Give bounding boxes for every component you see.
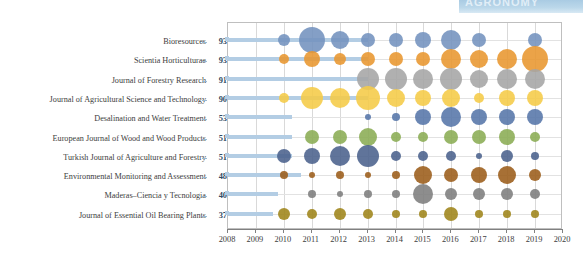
value-label: 93 [206, 38, 227, 46]
bubble-marker[interactable] [503, 210, 511, 218]
bubble-marker[interactable] [389, 33, 403, 47]
bubble-marker[interactable] [305, 130, 319, 144]
bubble-marker[interactable] [528, 33, 542, 47]
bubble-marker[interactable] [392, 210, 400, 218]
bubble-marker[interactable] [470, 70, 488, 88]
bubble-marker[interactable] [309, 172, 315, 178]
bubble-marker[interactable] [444, 168, 458, 182]
value-tick [202, 100, 207, 101]
bubble-marker[interactable] [498, 166, 516, 184]
bubble-marker[interactable] [415, 109, 431, 125]
bubble-marker[interactable] [476, 153, 482, 159]
bubble-marker[interactable] [441, 49, 461, 69]
bubble-marker[interactable] [359, 128, 377, 146]
bubble-marker[interactable] [445, 188, 457, 200]
bubble-marker[interactable] [499, 109, 515, 125]
bubble-marker[interactable] [472, 130, 486, 144]
bubble-marker[interactable] [304, 148, 320, 164]
bubble-marker[interactable] [499, 129, 515, 145]
bubble-marker[interactable] [442, 89, 460, 107]
bubble-marker[interactable] [277, 149, 291, 163]
x-axis-label: 2009 [247, 236, 264, 244]
bubble-marker[interactable] [473, 188, 485, 200]
bubble-marker[interactable] [418, 132, 428, 142]
bubble-marker[interactable] [299, 27, 325, 53]
bubble-marker[interactable] [365, 172, 371, 178]
bubble-marker[interactable] [501, 188, 513, 200]
bubble-marker[interactable] [501, 150, 513, 162]
bubble-marker[interactable] [333, 130, 347, 144]
bubble-marker[interactable] [331, 31, 349, 49]
bubble-marker[interactable] [361, 52, 375, 66]
bubble-marker[interactable] [530, 132, 540, 142]
bubble-marker[interactable] [330, 88, 350, 108]
bubble-marker[interactable] [280, 171, 288, 179]
bubble-marker[interactable] [414, 166, 432, 184]
bubble-marker[interactable] [415, 90, 431, 106]
bubble-marker[interactable] [392, 113, 400, 121]
bubble-marker[interactable] [531, 210, 539, 218]
bubble-marker[interactable] [419, 210, 427, 218]
category-label: Journal of Agricultural Science and Tech… [0, 96, 206, 104]
bubble-marker[interactable] [389, 52, 403, 66]
bubble-marker[interactable] [364, 190, 372, 198]
value-label: 40 [206, 192, 227, 200]
bubble-marker[interactable] [440, 68, 462, 90]
bubble-marker[interactable] [527, 109, 543, 125]
bubble-marker[interactable] [385, 68, 407, 90]
bubble-marker[interactable] [444, 130, 458, 144]
row-bar-stub [225, 95, 229, 99]
bubble-marker[interactable] [441, 107, 461, 127]
bubble-marker[interactable] [413, 184, 433, 204]
bubble-marker[interactable] [474, 93, 484, 103]
bubble-marker[interactable] [391, 151, 401, 161]
bubble-marker[interactable] [334, 53, 346, 65]
bubble-marker[interactable] [471, 109, 487, 125]
bubble-marker[interactable] [304, 51, 320, 67]
bubble-marker[interactable] [279, 54, 289, 64]
bubble-marker[interactable] [497, 49, 517, 69]
bubble-marker[interactable] [471, 167, 487, 183]
bubble-marker[interactable] [416, 52, 430, 66]
bubble-marker[interactable] [392, 171, 400, 179]
bubble-marker[interactable] [365, 114, 371, 120]
bubble-marker[interactable] [387, 89, 405, 107]
bubble-marker[interactable] [497, 69, 517, 89]
bubble-marker[interactable] [418, 151, 428, 161]
bubble-marker[interactable] [446, 151, 456, 161]
bubble-marker[interactable] [357, 145, 379, 167]
bubble-marker[interactable] [334, 208, 346, 220]
bubble-marker[interactable] [337, 191, 343, 197]
bubble-marker[interactable] [278, 208, 290, 220]
bubble-marker[interactable] [525, 69, 545, 89]
bubble-marker[interactable] [279, 93, 289, 103]
bubble-marker[interactable] [391, 132, 401, 142]
bubble-marker[interactable] [470, 50, 488, 68]
bubble-marker[interactable] [530, 189, 540, 199]
value-label: 93 [206, 57, 227, 65]
bubble-marker[interactable] [278, 34, 290, 46]
bubble-marker[interactable] [330, 146, 350, 166]
bubble-marker[interactable] [308, 190, 316, 198]
bubble-marker[interactable] [444, 207, 458, 221]
bubble-marker[interactable] [307, 209, 317, 219]
row-bar-stub [225, 191, 229, 195]
x-axis-label: 2012 [330, 236, 347, 244]
bubble-marker[interactable] [472, 33, 486, 47]
bubble-marker[interactable] [475, 210, 483, 218]
bubble-marker[interactable] [361, 33, 375, 47]
bubble-marker[interactable] [441, 30, 461, 50]
bubble-marker[interactable] [527, 90, 543, 106]
bubble-marker[interactable] [301, 87, 323, 109]
bubble-marker[interactable] [356, 86, 380, 110]
bubble-marker[interactable] [336, 171, 344, 179]
bubble-marker[interactable] [531, 152, 539, 160]
bubble-marker[interactable] [413, 69, 433, 89]
bubble-marker[interactable] [392, 190, 400, 198]
bubble-marker[interactable] [415, 32, 431, 48]
bubble-marker[interactable] [529, 169, 541, 181]
bubble-marker[interactable] [499, 90, 515, 106]
row-bar-stub [225, 153, 229, 157]
x-axis-tick [367, 229, 368, 233]
bubble-marker[interactable] [363, 209, 373, 219]
